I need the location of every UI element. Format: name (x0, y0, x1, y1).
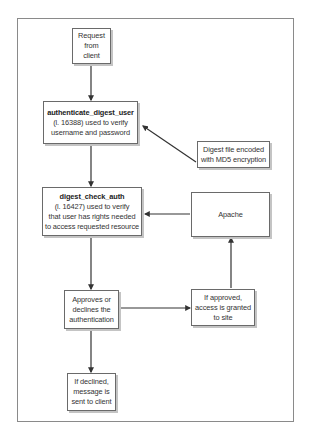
node-declined-line: If declined, (74, 377, 109, 387)
node-check-auth-line: that user has rights needed (49, 212, 136, 222)
node-approved-line: to site (213, 313, 232, 323)
node-approves-line: authentication (69, 315, 114, 325)
node-request-line: client (83, 51, 100, 61)
node-authenticate-digest-user: authenticate_digest_user (l. 16388) used… (43, 101, 138, 144)
node-approved-line: If approved, (204, 293, 242, 303)
node-approves: Approves or declines the authentication (64, 290, 119, 329)
node-apache: Apache (191, 192, 270, 237)
node-digest-file: Digest file encoded with MD5 encryption (197, 141, 270, 168)
node-request-line: from (84, 41, 98, 51)
node-digest-file-line: with MD5 encryption (201, 155, 266, 165)
node-digest-file-line: Digest file encoded (203, 145, 264, 155)
node-request: Request from client (72, 28, 111, 64)
node-declined-line: sent to client (71, 397, 111, 407)
node-if-approved: If approved, access is granted to site (191, 289, 255, 326)
node-declined-line: message is (73, 387, 109, 397)
node-request-line: Request (78, 31, 105, 41)
node-if-declined: If declined, message is sent to client (67, 373, 116, 411)
node-digest-check-auth: digest_check_auth (l. 16427) used to ver… (42, 187, 142, 236)
node-approved-line: access is granted (195, 303, 251, 313)
node-apache-label: Apache (218, 210, 242, 220)
node-authenticate-line: username and password (51, 128, 130, 138)
node-authenticate-line: (l. 16388) used to verify (53, 118, 128, 128)
node-check-auth-line: (l. 16427) used to verify (55, 202, 130, 212)
node-check-auth-line: to access requested resource (45, 222, 139, 232)
node-approves-line: Approves or (72, 295, 111, 305)
node-authenticate-title: authenticate_digest_user (47, 108, 134, 118)
node-check-auth-title: digest_check_auth (60, 192, 125, 202)
node-approves-line: declines the (72, 305, 110, 315)
